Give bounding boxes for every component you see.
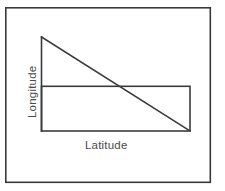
x-axis-label: Latitude [85, 140, 128, 152]
bounding-rectangle [42, 86, 191, 131]
figure-root: Longitude Latitude [0, 0, 225, 191]
y-axis-label: Longitude [27, 66, 39, 118]
negative-slope-diagonal [42, 37, 191, 131]
